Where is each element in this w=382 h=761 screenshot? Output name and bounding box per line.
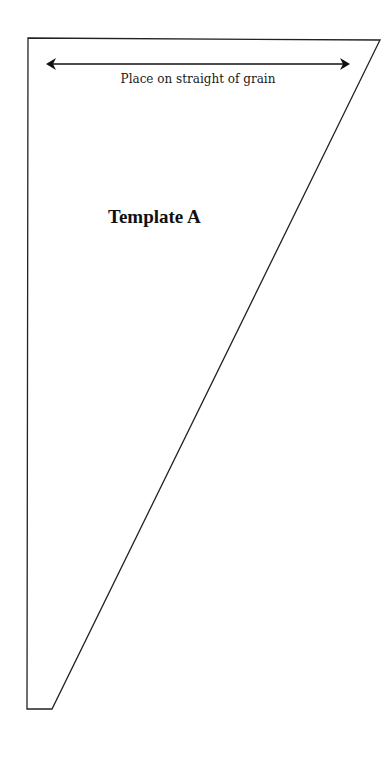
- template-outline: [27, 38, 380, 709]
- double-arrow-icon: [46, 58, 350, 70]
- grain-line-label: Place on straight of grain: [0, 72, 382, 86]
- pattern-piece: [0, 0, 382, 761]
- template-title: Template A: [108, 206, 201, 228]
